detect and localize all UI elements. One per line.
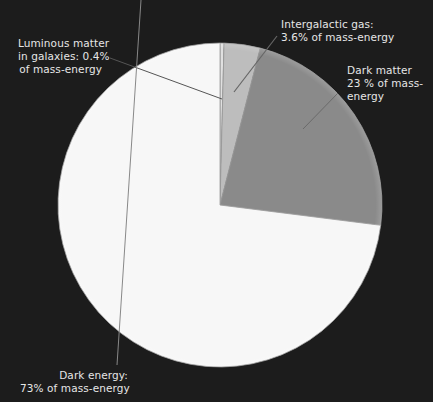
label-luminous-line2: in galaxies: 0.4% <box>18 50 102 63</box>
label-gas-line2: 3.6% of mass-energy <box>281 31 394 44</box>
label-dark-energy-line1: Dark energy: <box>20 369 128 382</box>
label-gas-line1: Intergalactic gas: <box>281 18 394 31</box>
label-dark-matter-line3: energy <box>347 90 423 103</box>
label-dark-matter: Dark matter 23 % of mass- energy <box>347 64 423 103</box>
label-luminous-line3: of mass-energy <box>18 63 102 76</box>
label-dark-energy-line2: 73% of mass-energy <box>20 382 128 395</box>
label-intergalactic-gas: Intergalactic gas: 3.6% of mass-energy <box>281 18 394 44</box>
label-luminous-matter: Luminous matter in galaxies: 0.4% of mas… <box>18 37 102 76</box>
label-luminous-line1: Luminous matter <box>18 37 102 50</box>
label-dark-matter-line2: 23 % of mass- <box>347 77 423 90</box>
label-dark-energy: Dark energy: 73% of mass-energy <box>20 369 128 395</box>
pie-slices <box>58 43 382 367</box>
pie-rim-glow <box>58 43 382 367</box>
label-dark-matter-line1: Dark matter <box>347 64 423 77</box>
